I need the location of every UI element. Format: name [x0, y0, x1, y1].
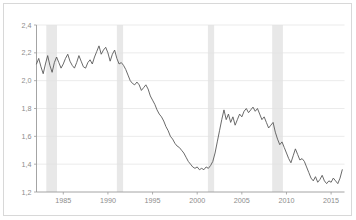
y-axis-tick-label: 1,2 — [22, 188, 32, 197]
x-axis-tick-label: 1990 — [100, 196, 116, 205]
y-axis-tick-label: 1,4 — [22, 160, 32, 169]
x-axis-tick-label: 2005 — [234, 196, 250, 205]
data-series-layer — [37, 46, 343, 184]
x-axis-tick-label: 2015 — [323, 196, 339, 205]
x-axis-tick-label: 1995 — [145, 196, 161, 205]
gridlines-layer — [37, 25, 345, 164]
y-axis-tick-label: 2,4 — [22, 21, 32, 30]
y-axis-tick-label: 2,2 — [22, 48, 32, 57]
x-axis-tick-labels: 1985199019952000200520102015 — [55, 192, 339, 205]
y-axis-tick-label: 1,8 — [22, 104, 32, 113]
chart-container: 2,42,22,01,81,61,41,2 198519901995200020… — [0, 0, 356, 220]
y-axis-tick-labels: 2,42,22,01,81,61,41,2 — [22, 21, 37, 197]
x-axis-tick-label: 2000 — [189, 196, 205, 205]
x-axis-tick-label: 2010 — [278, 196, 294, 205]
data-line-series-1 — [37, 46, 343, 184]
y-axis-tick-label: 1,6 — [22, 132, 32, 141]
line-chart: 2,42,22,01,81,61,41,2 198519901995200020… — [0, 0, 356, 220]
y-axis-tick-label: 2,0 — [22, 76, 32, 85]
x-axis-tick-label: 1985 — [55, 196, 71, 205]
